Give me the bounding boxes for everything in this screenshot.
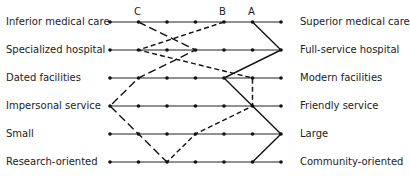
left-label-5: Small [6,128,34,140]
scale-point [251,48,255,52]
profile-line-c [110,22,196,162]
scale-point [108,76,112,80]
profile-line-b [139,22,253,162]
scale-point [194,104,198,108]
left-label-6: Research-oriented [6,156,98,168]
right-label-1: Superior medical care [300,16,410,28]
series-label-c: C [134,6,141,18]
left-label-3: Dated facilities [6,72,81,84]
left-label-1: Inferior medical care [6,16,110,28]
scale-point [279,76,283,80]
scale-point [251,132,255,136]
scale-point [194,20,198,24]
left-label-4: Impersonal service [6,100,101,112]
scale-point [137,160,141,164]
scale-point [165,20,169,24]
left-label-2: Specialized hospital [6,44,105,56]
scale-point [108,160,112,164]
scale-point [279,20,283,24]
scale-point [165,76,169,80]
profile-line-a [224,22,281,162]
scale-point [165,132,169,136]
scale-point [165,48,169,52]
scale-point [222,48,226,52]
scale-point [222,132,226,136]
scale-point [222,104,226,108]
scale-point [194,160,198,164]
right-label-6: Community-oriented [300,156,403,168]
scale-point [165,104,169,108]
series-label-b: B [219,6,226,18]
series-label-a: A [248,6,255,18]
scale-point [279,160,283,164]
scale-point [108,132,112,136]
right-label-3: Modern facilities [300,72,382,84]
right-label-4: Friendly service [300,100,378,112]
right-label-5: Large [300,128,328,140]
scale-point [222,160,226,164]
scale-point [194,76,198,80]
scale-point [279,104,283,108]
scale-point [137,104,141,108]
scale-point [108,48,112,52]
right-label-2: Full-service hospital [300,44,399,56]
